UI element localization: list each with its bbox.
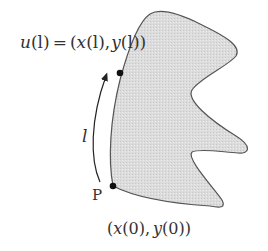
curve-point-u	[117, 70, 124, 77]
start-point-label: P	[92, 186, 102, 204]
arc-length-arrow	[93, 76, 106, 182]
curve-label: u(l)=(x(l),y(l))	[20, 32, 146, 52]
start-point-p	[110, 183, 117, 190]
arc-length-label: l	[82, 126, 87, 146]
contour-diagram: u(l)=(x(l),y(l)) l P (x(0),y(0))	[0, 0, 268, 251]
start-coords-label: (x(0),y(0))	[107, 219, 191, 238]
